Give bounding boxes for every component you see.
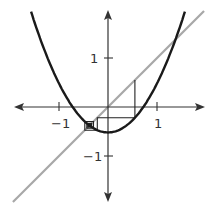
cobweb-diagram: −111−1 [0,0,212,210]
x-tick-label: −1 [51,116,70,131]
y-tick-label: 1 [90,51,98,66]
x-tick-label: 1 [154,116,162,131]
y-tick-label: −1 [83,149,102,164]
plot-canvas: −111−1 [0,0,212,210]
